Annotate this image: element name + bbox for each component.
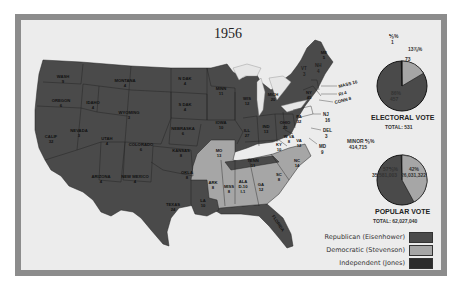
label-nh: NH (315, 63, 322, 68)
label-del: DEL (323, 128, 332, 133)
legend-democratic: Democratic (Stevenson) (321, 244, 433, 256)
label-mass: MASS 16 (338, 79, 358, 89)
pv-minor-votes: 414,715 (349, 144, 367, 150)
legend-democratic-label: Democratic (Stevenson) (326, 246, 405, 254)
legend-republican: Republican (Eisenhower) (321, 231, 433, 243)
label-del-ev: 3 (325, 134, 328, 139)
label-ala-ev2: I-1 (241, 189, 247, 194)
electoral-vote-pie (377, 61, 427, 111)
ev-democratic-votes: 73 (405, 56, 411, 62)
label-calif-ev: 32 (49, 139, 54, 144)
label-conn: CONN 8 (334, 96, 352, 105)
label-iowa-ev: 10 (219, 125, 224, 130)
label-ky-ev: 10 (277, 147, 282, 152)
label-mo-ev: 13 (217, 153, 222, 158)
label-nc-ev: 14 (295, 163, 300, 168)
label-la-ev: 10 (201, 203, 206, 208)
label-ind-ev: 13 (264, 129, 269, 134)
pv-democratic-votes: 26,031,322 (401, 172, 426, 178)
label-ill-ev: 27 (245, 133, 250, 138)
label-md: MD (319, 144, 327, 149)
label-vt: VT (301, 66, 307, 71)
ev-democratic-pct: 13⅞% (408, 46, 422, 52)
legend-independent: Independent (Jones) (321, 257, 433, 269)
label-mich-ev: 20 (271, 97, 276, 102)
label-tenn-ev: 11 (251, 163, 256, 168)
ev-title: ELECTORAL VOTE (371, 114, 435, 121)
label-wis-ev: 12 (245, 101, 250, 106)
label-minn-ev: 11 (219, 91, 224, 96)
legend-republican-label: Republican (Eisenhower) (324, 233, 405, 241)
label-ga-ev: 12 (259, 187, 264, 192)
pv-total: TOTAL: 62,027,040 (373, 218, 417, 224)
popular-vote-pie (377, 155, 427, 205)
label-va-ev: 12 (297, 143, 302, 148)
ev-independent-votes: 1 (391, 39, 394, 45)
pv-title: POPULAR VOTE (375, 208, 430, 215)
legend-independent-swatch (409, 258, 433, 269)
map-title: 1956 (214, 26, 242, 42)
map-paper: WASH 9 OREGON 6 CALIF 32 IDAHO 4 NEVADA … (21, 20, 441, 270)
map-frame: WASH 9 OREGON 6 CALIF 32 IDAHO 4 NEVADA … (15, 14, 447, 276)
label-nj: NJ (323, 112, 329, 117)
legend-independent-label: Independent (Jones) (339, 259, 405, 267)
label-ohio-ev: 25 (283, 125, 288, 130)
ev-republican-votes: 457 (390, 96, 398, 102)
label-ny-ev: 45 (307, 95, 312, 100)
pv-republican-votes: 35,581,003 (372, 172, 397, 178)
label-pa-ev: 32 (297, 119, 302, 124)
label-wva-ev: 8 (288, 139, 291, 144)
label-nj-ev: 16 (325, 118, 331, 123)
label-texas-ev: 24 (171, 207, 176, 212)
label-md-ev: 9 (321, 150, 324, 155)
legend-republican-swatch (409, 232, 433, 243)
legend-democratic-swatch (409, 245, 433, 256)
ev-total: TOTAL: 531 (385, 124, 413, 130)
